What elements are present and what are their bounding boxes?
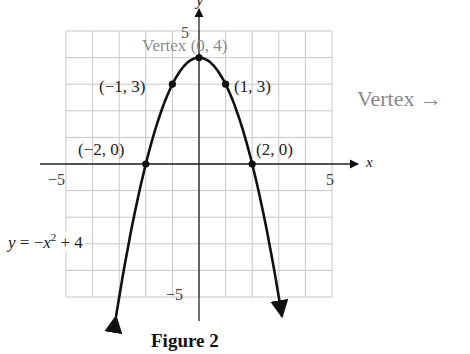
vertex-word: Vertex xyxy=(142,36,186,55)
data-point xyxy=(195,54,202,61)
eq-x: x xyxy=(43,233,51,252)
equation-label: y = −x2 + 4 xyxy=(8,232,85,251)
coordinate-plane xyxy=(0,0,470,354)
eq-y: y xyxy=(8,233,16,252)
point-label-m2-0: (−2, 0) xyxy=(78,141,124,158)
vertex-point-label: (0, 4) xyxy=(191,36,228,55)
y-tick-neg5: −5 xyxy=(166,287,183,303)
point-label-m1-3: (−1, 3) xyxy=(99,78,145,95)
data-point xyxy=(222,81,229,88)
vertex-arrow-annotation: Vertex → xyxy=(357,88,442,110)
point-label-1-3: (1, 3) xyxy=(234,78,271,95)
data-point xyxy=(249,160,256,167)
x-tick-neg5: −5 xyxy=(48,172,65,188)
y-axis-label: y xyxy=(196,0,204,8)
figure-title: Figure 2 xyxy=(151,330,219,352)
eq-mid: = − xyxy=(16,233,44,252)
vertex-inline-label: Vertex (0, 4) xyxy=(142,37,227,54)
data-point xyxy=(142,160,149,167)
x-tick-5: 5 xyxy=(326,172,334,188)
eq-end: + 4 xyxy=(56,233,83,252)
x-axis-label: x xyxy=(366,155,373,170)
data-point xyxy=(169,81,176,88)
point-label-2-0: (2, 0) xyxy=(256,141,293,158)
